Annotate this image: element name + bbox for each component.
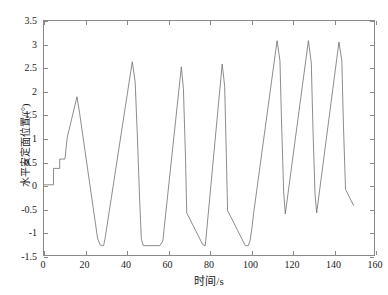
x-axis-tick-label: 160 xyxy=(368,259,383,270)
y-axis-tick-right xyxy=(370,139,374,140)
y-axis-tick xyxy=(44,233,48,234)
y-axis-tick-label: -0.5 xyxy=(0,203,37,214)
y-axis-tick-label: 2 xyxy=(0,85,37,96)
x-axis-tick-label: 80 xyxy=(204,259,214,270)
x-axis-tick xyxy=(169,251,170,255)
x-axis-tick xyxy=(293,251,294,255)
y-axis-tick xyxy=(44,186,48,187)
y-axis-tick-label: 2.5 xyxy=(0,62,37,73)
x-axis-tick xyxy=(44,251,45,255)
y-axis-tick-right xyxy=(370,163,374,164)
y-axis-tick xyxy=(44,92,48,93)
plot-area xyxy=(43,20,375,256)
x-axis-tick-label: 40 xyxy=(121,259,131,270)
y-axis-tick xyxy=(44,45,48,46)
x-axis-tick-top xyxy=(86,21,87,25)
y-axis-tick xyxy=(44,257,48,258)
x-axis-title: 时间/s xyxy=(43,272,375,288)
y-axis-tick-right xyxy=(370,45,374,46)
y-axis-tick xyxy=(44,68,48,69)
x-axis-tick xyxy=(376,251,377,255)
x-axis-tick-top xyxy=(210,21,211,25)
y-axis-tick-label: 0 xyxy=(0,180,37,191)
y-axis-tick-label: -1 xyxy=(0,227,37,238)
y-axis-tick-label: 0.5 xyxy=(0,156,37,167)
x-axis-tick-label: 60 xyxy=(163,259,173,270)
x-axis-tick-top xyxy=(335,21,336,25)
x-axis-tick xyxy=(252,251,253,255)
y-axis-tick-right xyxy=(370,233,374,234)
x-axis-tick-label: 20 xyxy=(80,259,90,270)
y-axis-tick-label: 3.5 xyxy=(0,15,37,26)
x-axis-tick xyxy=(210,251,211,255)
y-axis-tick-right xyxy=(370,257,374,258)
x-axis-tick xyxy=(335,251,336,255)
x-axis-tick-label: 120 xyxy=(285,259,300,270)
y-axis-tick xyxy=(44,139,48,140)
y-axis-tick xyxy=(44,163,48,164)
y-axis-tick-right xyxy=(370,68,374,69)
y-axis-tick-label: 1 xyxy=(0,133,37,144)
y-axis-tick-right xyxy=(370,21,374,22)
x-axis-tick-top xyxy=(376,21,377,25)
x-axis-tick-label: 0 xyxy=(41,259,46,270)
y-axis-tick-label: -1.5 xyxy=(0,251,37,262)
y-axis-tick xyxy=(44,115,48,116)
y-axis-tick-label: 3 xyxy=(0,38,37,49)
y-axis-tick-right xyxy=(370,92,374,93)
x-axis-tick-label: 100 xyxy=(243,259,258,270)
y-axis-tick-label: 1.5 xyxy=(0,109,37,120)
chart-figure: 水平安定面位置/(°) 时间/s 020406080100120140160-1… xyxy=(0,0,388,295)
y-axis-tick-right xyxy=(370,115,374,116)
x-axis-tick-top xyxy=(293,21,294,25)
y-axis-tick-right xyxy=(370,186,374,187)
x-axis-tick xyxy=(127,251,128,255)
data-series-line xyxy=(44,21,374,255)
x-axis-tick-top xyxy=(127,21,128,25)
y-axis-tick xyxy=(44,210,48,211)
x-axis-tick-top xyxy=(169,21,170,25)
x-axis-tick-top xyxy=(252,21,253,25)
y-axis-tick-right xyxy=(370,210,374,211)
x-axis-tick xyxy=(86,251,87,255)
y-axis-tick xyxy=(44,21,48,22)
x-axis-tick-label: 140 xyxy=(326,259,341,270)
